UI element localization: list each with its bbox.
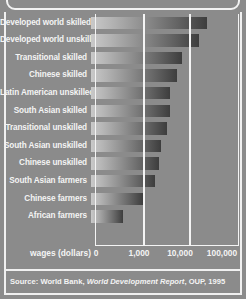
plot-area: Developed world skilledDeveloped world u… xyxy=(0,14,246,246)
bar xyxy=(91,140,161,152)
bar-row: South Asian unskilled xyxy=(0,137,246,155)
bar-category-label: Chinese farmers xyxy=(0,195,91,203)
bar-row: Transitional skilled xyxy=(0,49,246,67)
source-suffix: , OUP, 1995 xyxy=(184,277,225,286)
bar-category-label: South Asian unskilled xyxy=(0,142,91,150)
bar-category-label: Latin American unskilled xyxy=(0,89,91,97)
bar-category-label: South Asian farmers xyxy=(0,177,91,185)
bar-row: Developed world unskilled xyxy=(0,32,246,50)
x-tick-label: 1,000 xyxy=(129,249,150,257)
bar-track xyxy=(91,67,246,85)
bar-track xyxy=(91,155,246,173)
bar xyxy=(91,105,170,117)
source-divider xyxy=(6,269,240,271)
bar-row: Chinese unskilled xyxy=(0,155,246,173)
bar-row: South Asian farmers xyxy=(0,172,246,190)
bar-category-label: Developed world skilled xyxy=(0,19,91,27)
x-axis-title: wages (dollars) xyxy=(30,249,91,257)
bar-track xyxy=(91,172,246,190)
bar xyxy=(91,175,155,187)
bar-category-label: Transitional skilled xyxy=(0,54,91,62)
bar-row: South Asian skilled xyxy=(0,102,246,120)
x-tick-label: 100,000 xyxy=(207,249,237,257)
bar-track xyxy=(91,49,246,67)
bar-row: Transitional unskilled xyxy=(0,120,246,138)
bar xyxy=(91,157,159,169)
x-axis: wages (dollars) 01,00010,000100,000 xyxy=(0,249,246,263)
bar-track xyxy=(91,32,246,50)
bar-rows: Developed world skilledDeveloped world u… xyxy=(0,14,246,225)
bar-row: African farmers xyxy=(0,208,246,226)
bar xyxy=(91,34,199,46)
bar xyxy=(91,122,167,134)
bar-track xyxy=(91,120,246,138)
bar-track xyxy=(91,137,246,155)
bar-category-label: South Asian skilled xyxy=(0,107,91,115)
bar xyxy=(91,69,177,81)
bar-track xyxy=(91,190,246,208)
bar-track xyxy=(91,14,246,32)
bar xyxy=(91,193,143,205)
bar xyxy=(91,52,182,64)
source-report-title: World Development Report xyxy=(87,277,185,286)
bar-row: Latin American unskilled xyxy=(0,84,246,102)
bar-row: Chinese farmers xyxy=(0,190,246,208)
bar-row: Developed world skilled xyxy=(0,14,246,32)
bar-track xyxy=(91,84,246,102)
bar xyxy=(91,210,123,222)
bar xyxy=(91,17,207,29)
bar-category-label: Chinese unskilled xyxy=(0,159,91,167)
bar-category-label: Transitional unskilled xyxy=(0,124,91,132)
top-banner-frame xyxy=(6,0,240,10)
wage-comparison-bar-chart: Developed world skilledDeveloped world u… xyxy=(0,0,246,299)
bar-track xyxy=(91,208,246,226)
x-tick-label: 0 xyxy=(94,249,99,257)
bar-category-label: Developed world unskilled xyxy=(0,36,91,44)
source-caption: Source: World Bank, World Development Re… xyxy=(10,278,225,286)
bar xyxy=(91,87,170,99)
source-prefix: Source: World Bank, xyxy=(10,277,87,286)
bar-category-label: African farmers xyxy=(0,212,91,220)
x-tick-label: 10,000 xyxy=(167,249,193,257)
bar-track xyxy=(91,102,246,120)
bar-category-label: Chinese skilled xyxy=(0,71,91,79)
bar-row: Chinese skilled xyxy=(0,67,246,85)
